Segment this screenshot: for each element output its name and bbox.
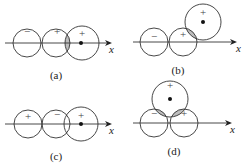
nucleus-dot [201, 20, 205, 24]
panel-d: + − + x (d) [133, 79, 235, 158]
sign: + [79, 27, 85, 39]
nucleus-dot [79, 122, 83, 126]
panel-label: (d) [168, 145, 181, 158]
panel-label: (a) [50, 69, 63, 82]
diagram: − + + x (a) − + + x (b) + − + x (c) [0, 0, 245, 168]
axis-label: x [108, 43, 114, 55]
axis-label: x [229, 123, 235, 135]
sign: + [181, 107, 187, 119]
sign: + [180, 28, 186, 40]
axis-label: x [235, 42, 241, 54]
panel-label: (b) [172, 64, 185, 77]
panel-label: (c) [50, 150, 63, 163]
axis-label: x [108, 124, 114, 136]
nucleus-dot [168, 97, 172, 101]
nucleus-dot [79, 41, 83, 45]
sign: + [200, 6, 206, 18]
panel-b: − + + x (b) [133, 4, 241, 77]
sign: + [78, 109, 84, 121]
sign: − [151, 30, 157, 42]
sign: − [151, 107, 157, 119]
sign: + [167, 79, 173, 91]
sign: − [54, 108, 60, 120]
sign: + [54, 25, 60, 37]
sign: − [24, 25, 30, 37]
panel-c: + − + x (c) [5, 107, 114, 163]
panel-a: − + + x (a) [5, 25, 114, 82]
sign: + [25, 110, 31, 122]
